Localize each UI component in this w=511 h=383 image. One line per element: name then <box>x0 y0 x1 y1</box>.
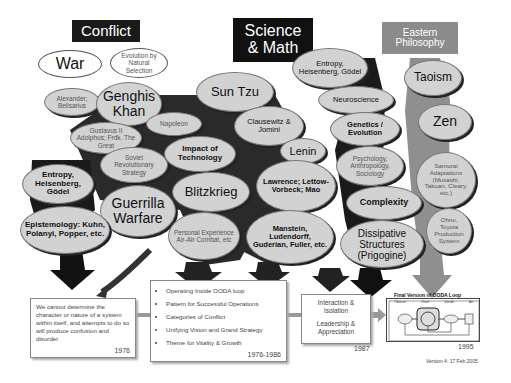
box-1987-line1: Interaction & Isolation <box>305 299 367 316</box>
timeline-box-1976: We cannot determine the character or nat… <box>30 298 136 358</box>
node-taoism: Taoism <box>404 60 462 96</box>
node-genetics-evolution: Genetics / Evolution <box>330 112 400 146</box>
list-item: Theme for Vitality & Growth <box>166 336 280 349</box>
timeline-box-1976-1986: Operating Inside OODA loop Pattern for S… <box>150 280 287 362</box>
conflict-header: Conflict <box>72 20 140 42</box>
ooda-year: 1995 <box>458 343 474 350</box>
ooda-label-act: Act <box>469 300 473 304</box>
box-1976-year: 1976 <box>114 347 130 354</box>
node-soviet-revolutionary-strategy: Soviet Revolutionary Strategy <box>100 147 168 183</box>
node-war: War <box>38 50 102 78</box>
timeline-box-1987: Interaction & Isolation Leadership & App… <box>301 294 371 344</box>
list-item: Pattern for Successful Operations <box>166 297 280 310</box>
box-1976-1986-list: Operating Inside OODA loop Pattern for S… <box>157 284 280 349</box>
node-entropy-heisenberg-godel-left: Entropy, Heisenberg, Gödel <box>22 164 94 204</box>
ooda-label-orient: Orient <box>421 300 429 304</box>
node-complexity: Complexity <box>346 186 422 220</box>
node-neuroscience: Neuroscience <box>318 86 394 114</box>
ooda-labels: Observe Orient Decide Act <box>387 300 481 304</box>
node-personal-experience: Personal Experience Air-Air Combat, etc <box>168 212 240 260</box>
box-1987-line2: Leadership & Appreciation <box>305 320 367 337</box>
ooda-loop-diagram: Observe Orient Decide Act <box>386 298 480 342</box>
ooda-loop-graphic <box>387 299 481 343</box>
node-psychology-anthropology-sociology: Psychology, Anthropology, Sociology <box>336 146 404 186</box>
node-blitzkrieg: Blitzkrieg <box>172 172 250 212</box>
node-manstein-ludendorff: Manstein, Ludendorff, Guderian, Fuller, … <box>246 210 334 264</box>
node-napoleon: Napoleon <box>146 112 202 136</box>
node-zen: Zen <box>418 104 472 140</box>
node-alexander-belisarius: Alexander; Belisarius <box>44 88 100 116</box>
node-evolution-natural-selection: Evolution by Natural Selection <box>110 48 168 78</box>
list-item: Categories of Conflict <box>166 310 280 323</box>
ooda-label-observe: Observe <box>395 300 406 304</box>
eastern-philosophy-header: Eastern Philosophy <box>382 22 458 54</box>
node-epistemology: Epistemology: Kuhn, Polanyi, Popper, etc… <box>20 206 110 254</box>
ooda-label-decide: Decide <box>444 300 453 304</box>
node-dissipative-structures: Dissipative Structures (Prigogine) <box>340 220 424 268</box>
node-lawrence-lettow-vorbeck-mao: Lawrence; Lettow-Vorbeck; Mao <box>256 160 336 212</box>
list-item: Operating Inside OODA loop <box>166 284 280 297</box>
node-guerrilla-warfare: Guerrilla Warfare <box>100 185 176 237</box>
node-ohno-toyota: Ohno, Toyota Production System <box>426 208 472 254</box>
list-item: Unifying Vision and Grand Strategy <box>166 323 280 336</box>
box-1987-year: 1987 <box>354 345 370 352</box>
version-footer: Version 4: 17 Feb 2005 <box>426 358 478 364</box>
node-samurai-adaptations: Samurai Adaptations (Musashi, Takuan, Cl… <box>416 152 476 208</box>
box-1976-1986-year: 1976-1986 <box>248 351 281 358</box>
box-1976-text: We cannot determine the character or nat… <box>36 303 130 343</box>
node-impact-of-technology: Impact of Technology <box>164 136 236 172</box>
node-entropy-heisenberg-godel: Entropy, Heisenberg, Gödel <box>292 48 368 88</box>
